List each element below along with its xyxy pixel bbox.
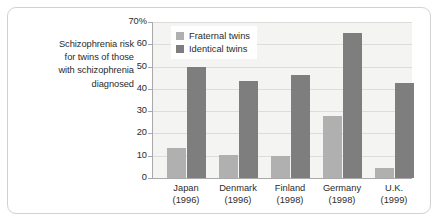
y-tick-label: 70% bbox=[105, 16, 147, 26]
x-axis-label: U.K.(1999) bbox=[360, 183, 428, 206]
y-tick-mark bbox=[148, 67, 152, 68]
y-tick-label: 40 bbox=[105, 83, 147, 93]
x-axis-label-name: U.K. bbox=[360, 183, 428, 195]
bar-identical bbox=[395, 83, 414, 178]
bar-fraternal bbox=[375, 168, 394, 178]
y-tick-label: 20 bbox=[105, 127, 147, 137]
chart-legend: Fraternal twins Identical twins bbox=[171, 26, 257, 59]
y-tick-mark bbox=[148, 111, 152, 112]
bar-identical bbox=[291, 75, 310, 178]
y-tick-label: 0 bbox=[105, 172, 147, 182]
y-tick-mark bbox=[148, 44, 152, 45]
bar-fraternal bbox=[323, 116, 342, 178]
bar-fraternal bbox=[271, 156, 290, 178]
bar-fraternal bbox=[167, 148, 186, 178]
bar-identical bbox=[239, 81, 258, 178]
legend-label-fraternal: Fraternal twins bbox=[189, 31, 250, 41]
x-axis-label-year: (1999) bbox=[360, 195, 428, 207]
bar-fraternal bbox=[219, 155, 238, 178]
y-tick-mark bbox=[148, 178, 152, 179]
y-tick-mark bbox=[148, 133, 152, 134]
y-tick-mark bbox=[148, 89, 152, 90]
bar-identical bbox=[187, 67, 206, 178]
legend-swatch-identical-icon bbox=[176, 45, 184, 53]
y-tick-mark bbox=[148, 22, 152, 23]
figure-container: Schizophrenia risk for twins of those wi… bbox=[0, 0, 438, 221]
legend-item-fraternal: Fraternal twins bbox=[176, 29, 250, 42]
bar-identical bbox=[343, 33, 362, 178]
y-tick-label: 50 bbox=[105, 61, 147, 71]
gridline bbox=[153, 22, 412, 23]
legend-swatch-fraternal-icon bbox=[176, 32, 184, 40]
x-axis-baseline bbox=[153, 178, 412, 179]
y-tick-label: 60 bbox=[105, 38, 147, 48]
y-tick-mark bbox=[148, 156, 152, 157]
legend-label-identical: Identical twins bbox=[189, 44, 247, 54]
legend-item-identical: Identical twins bbox=[176, 42, 250, 55]
y-tick-label: 30 bbox=[105, 105, 147, 115]
y-tick-label: 10 bbox=[105, 150, 147, 160]
